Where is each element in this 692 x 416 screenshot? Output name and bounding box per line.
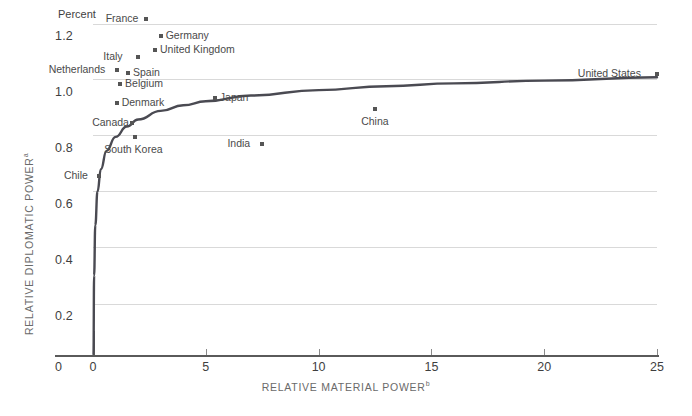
data-point-marker bbox=[136, 55, 140, 59]
data-point-marker bbox=[115, 101, 119, 105]
data-point-label: Belgium bbox=[125, 77, 163, 89]
data-point-marker bbox=[153, 48, 157, 52]
data-point-marker bbox=[144, 17, 148, 21]
data-point-label: United States bbox=[578, 67, 641, 79]
data-point-marker bbox=[97, 174, 101, 178]
data-point-marker bbox=[126, 71, 130, 75]
data-point-label: Netherlands bbox=[49, 63, 106, 75]
data-point-label: United Kingdom bbox=[160, 43, 235, 55]
data-point-label: France bbox=[106, 12, 139, 24]
data-point-label: China bbox=[361, 115, 388, 127]
chart-canvas: 0.20.40.60.81.01.200510152025PercentRELA… bbox=[0, 0, 692, 416]
data-point-label: Germany bbox=[166, 29, 209, 41]
data-point-label: Spain bbox=[133, 66, 160, 78]
data-point-label: Canada bbox=[92, 116, 129, 128]
data-point-label: Denmark bbox=[122, 96, 165, 108]
data-point-marker bbox=[655, 72, 659, 76]
data-point-marker bbox=[115, 68, 119, 72]
data-point-marker bbox=[260, 142, 264, 146]
data-point-label: India bbox=[227, 137, 250, 149]
data-point-marker bbox=[130, 121, 134, 125]
data-point-label: Chile bbox=[64, 169, 88, 181]
data-point-label: South Korea bbox=[104, 143, 162, 155]
data-point-marker bbox=[373, 107, 377, 111]
data-point-marker bbox=[133, 135, 137, 139]
data-point-label: Italy bbox=[103, 50, 122, 62]
data-point-label: Japan bbox=[220, 91, 249, 103]
data-point-marker bbox=[118, 82, 122, 86]
data-point-marker bbox=[213, 96, 217, 100]
data-point-marker bbox=[159, 34, 163, 38]
